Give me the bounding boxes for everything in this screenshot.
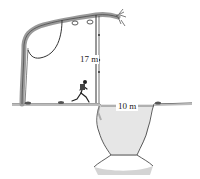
ravine — [94, 104, 154, 175]
vine-height-label: 17 m — [79, 55, 99, 64]
runner — [72, 80, 89, 102]
tree — [22, 9, 126, 104]
ravine-width-label: 10 m — [116, 102, 138, 111]
diagram-figure: 17 m 10 m — [0, 0, 200, 179]
diagram-drawing — [0, 0, 200, 179]
